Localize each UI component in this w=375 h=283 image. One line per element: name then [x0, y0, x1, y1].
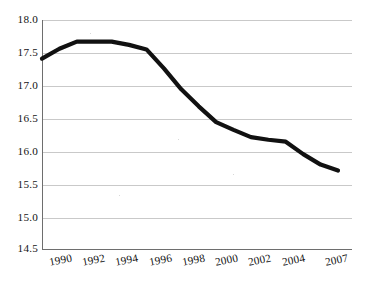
- line-chart: 18.0 17.5 17.0 16.5 16.0 15.5 15.0 14.5 …: [0, 0, 375, 283]
- series-line-chart-area: [0, 0, 375, 283]
- series-line: [42, 42, 338, 171]
